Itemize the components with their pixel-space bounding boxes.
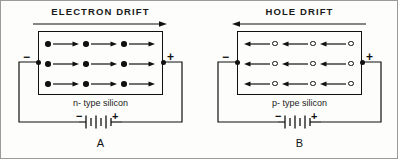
- terminal-node-positive-b: [360, 60, 365, 65]
- circuit-wiring-b: [200, 1, 398, 159]
- panel-b-hole-drift: HOLE DRIFT: [200, 1, 398, 159]
- panel-letter-b: B: [200, 137, 398, 149]
- battery-positive-sign-b: +: [311, 111, 317, 122]
- panel-a-electron-drift: ELECTRON DRIFT: [1, 1, 200, 159]
- material-label-a: n- type silicon: [1, 98, 200, 108]
- semiconductor-drift-figure: ELECTRON DRIFT: [0, 0, 398, 159]
- terminal-sign-positive-b: +: [366, 51, 373, 63]
- terminal-sign-positive-a: +: [167, 51, 174, 63]
- terminal-node-positive-a: [161, 60, 166, 65]
- circuit-wiring-a: [1, 1, 200, 159]
- battery-positive-sign-a: +: [112, 111, 118, 122]
- terminal-node-negative-a: [36, 60, 41, 65]
- terminal-node-negative-b: [235, 60, 240, 65]
- battery-negative-sign-b: −: [275, 111, 281, 122]
- material-label-b: p- type silicon: [200, 98, 398, 108]
- panel-letter-a: A: [1, 137, 200, 149]
- battery-negative-sign-a: −: [76, 111, 82, 122]
- terminal-sign-negative-a: −: [23, 51, 30, 63]
- terminal-sign-negative-b: −: [222, 51, 229, 63]
